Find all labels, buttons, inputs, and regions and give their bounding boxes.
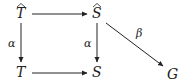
node-s-hat: S [92,4,102,22]
arrow-s-hat-to-g [106,23,163,66]
edge-label-alpha-left: α [8,37,16,50]
node-t-hat: T [16,4,27,22]
svg-text:T: T [16,5,27,21]
edge-label-beta: β [135,27,142,40]
commutative-diagram: T S T S G α α β [0,0,182,82]
node-t: T [16,64,27,80]
node-s: S [92,64,102,80]
edge-label-alpha-right: α [84,37,92,50]
svg-text:S: S [92,5,102,21]
node-g: G [167,66,178,82]
